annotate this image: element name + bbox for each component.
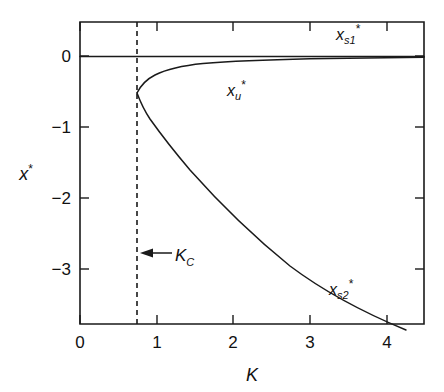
y-tick-label-minus3: −3 [52, 260, 71, 279]
x-tick-label-0: 0 [75, 333, 84, 352]
kc-annotation: KC [140, 246, 194, 268]
y-tick-label-0: 0 [62, 47, 71, 66]
kc-label-base: K [175, 246, 187, 265]
curve-label-xs2-sub: s2 [337, 289, 349, 301]
curve-xs2 [137, 93, 406, 330]
y-axis-title-star: * [28, 162, 33, 176]
curve-xu [137, 57, 424, 93]
y-tick-label-minus2: −2 [52, 189, 71, 208]
y-axis-title: x* [18, 162, 33, 184]
y-axis-ticks [80, 56, 424, 269]
bifurcation-diagram-figure: 0 1 2 3 4 0 −1 −2 −3 K x* [0, 0, 444, 392]
x-tick-label-1: 1 [152, 333, 161, 352]
kc-label-sub: C [186, 256, 194, 268]
kc-arrow-head-icon [140, 249, 153, 258]
plot-canvas: 0 1 2 3 4 0 −1 −2 −3 K x* [0, 0, 444, 392]
curve-label-xu: xu* [226, 78, 246, 102]
axis-frame [80, 22, 424, 324]
y-tick-label-minus1: −1 [52, 118, 71, 137]
x-tick-labels: 0 1 2 3 4 [75, 333, 391, 352]
curve-label-xs1-sup: * [356, 22, 361, 36]
curve-label-xs2-sup: * [349, 277, 354, 291]
y-axis-title-group: x* [18, 162, 33, 184]
y-tick-labels: 0 −1 −2 −3 [52, 47, 71, 279]
x-axis-title: K [246, 365, 259, 385]
x-axis-ticks [80, 22, 387, 324]
curve-label-xs1: xs1* [335, 22, 361, 46]
curve-label-xs2: xs2* [328, 277, 354, 301]
kc-label: KC [175, 246, 194, 268]
curve-label-xu-sup: * [241, 78, 246, 92]
plot-box-border [80, 22, 424, 324]
x-tick-label-4: 4 [382, 333, 391, 352]
x-tick-label-2: 2 [228, 333, 237, 352]
x-tick-label-3: 3 [305, 333, 314, 352]
curve-label-xs1-sub: s1 [344, 34, 356, 46]
